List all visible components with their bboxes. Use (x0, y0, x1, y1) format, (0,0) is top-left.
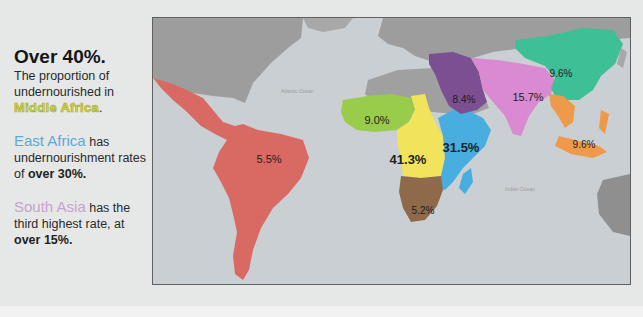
east-africa-highlight: East Africa (14, 132, 86, 149)
australia-land (597, 174, 630, 236)
middle-africa-highlight: Middle Africa (14, 100, 99, 115)
latin-america-value: 5.5% (256, 153, 281, 165)
greenland-land (303, 18, 353, 32)
middle-africa-value: 41.3% (390, 152, 427, 167)
text-panel: Over 40%. The proportion of undernourish… (14, 46, 149, 248)
indian-ocean-label: Indian Ocean (505, 186, 535, 192)
page-bottom-strip (0, 306, 643, 317)
south-asia-highlight: South Asia (14, 198, 86, 215)
world-map: Atlantic Ocean Indian Ocean 5.5% 9.0% 41… (152, 17, 631, 285)
period: . (99, 101, 102, 115)
middle-africa-statement: The proportion of undernourished in Midd… (14, 68, 149, 116)
east-asia-value: 9.6% (550, 68, 573, 79)
statement-text: The proportion of undernourished in (14, 69, 114, 99)
south-asia-value: 15.7% (512, 91, 543, 103)
west-africa-value: 9.0% (364, 114, 389, 126)
latin-america-region (153, 78, 309, 280)
south-asia-statement: South Asia has the third highest rate, a… (14, 199, 149, 248)
east-africa-statement: East Africa has undernourishment rates o… (14, 133, 149, 182)
western-asia-value: 8.4% (453, 94, 476, 105)
south-east-asia-value: 9.6% (573, 139, 596, 150)
madagascar-region (459, 168, 473, 194)
statement-bold: over 30%. (28, 167, 86, 181)
atlantic-ocean-label: Atlantic Ocean (281, 88, 314, 94)
east-africa-value: 31.5% (443, 140, 480, 155)
headline: Over 40%. (14, 46, 149, 68)
southern-africa-value: 5.2% (412, 205, 435, 216)
statement-bold: over 15%. (14, 233, 72, 247)
